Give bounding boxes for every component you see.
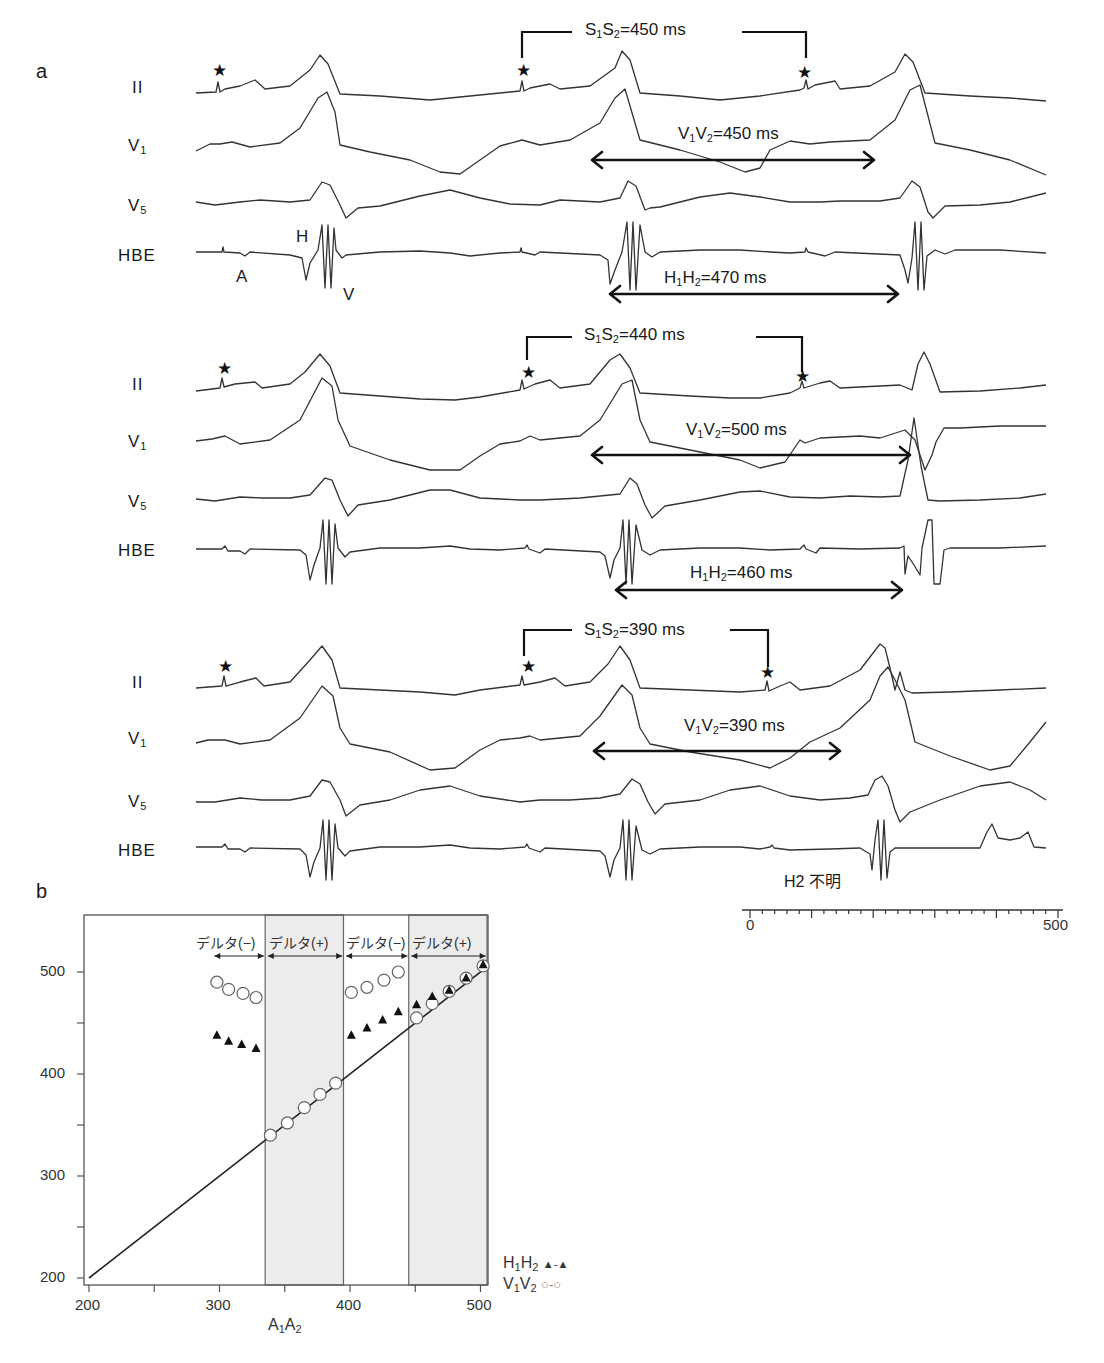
v1v2-point — [378, 974, 390, 986]
v1v2-point — [237, 987, 249, 999]
h1h2-point — [378, 1015, 387, 1024]
v1v2-point — [330, 1077, 342, 1089]
region-label-delta-neg-1: デルタ(−) — [196, 932, 256, 952]
v1v2-point — [314, 1088, 326, 1100]
region-label-delta-neg-2: デルタ(−) — [346, 932, 406, 952]
h1h2-point — [362, 1023, 371, 1032]
y-tick-label: 500 — [40, 962, 65, 979]
v1v2-point — [361, 981, 373, 993]
legend-h1h2: H1H2 ▲-▲ — [503, 1254, 568, 1273]
x-tick-label: 400 — [336, 1296, 361, 1313]
shaded-region — [265, 915, 343, 1285]
v1v2-point — [411, 1012, 423, 1024]
v1v2-point — [223, 983, 235, 995]
x-axis-label: A1A2 — [268, 1316, 302, 1335]
v1v2-point — [298, 1102, 310, 1114]
x-tick-label: 500 — [467, 1296, 492, 1313]
region-label-delta-pos-2: デルタ(+) — [412, 932, 472, 952]
legend-triangle-icon: ▲-▲ — [543, 1258, 568, 1270]
y-tick-label: 400 — [40, 1064, 65, 1081]
y-tick-label: 300 — [40, 1166, 65, 1183]
v1v2-point — [392, 966, 404, 978]
legend-circle-icon: ○-○ — [541, 1277, 561, 1292]
v1v2-point — [281, 1117, 293, 1129]
x-tick-label: 200 — [75, 1296, 100, 1313]
h1h2-point — [237, 1039, 246, 1048]
x-tick-label: 300 — [206, 1296, 231, 1313]
y-tick-label: 200 — [40, 1268, 65, 1285]
v1v2-point — [345, 986, 357, 998]
h1h2-point — [394, 1007, 403, 1016]
shaded-region — [409, 915, 487, 1285]
h1h2-point — [347, 1030, 356, 1039]
v1v2-point — [264, 1129, 276, 1141]
h1h2-point — [252, 1044, 261, 1053]
legend-v1v2: V1V2 ○-○ — [503, 1275, 561, 1294]
scatter-plot — [0, 0, 1104, 1363]
v1v2-point — [250, 992, 262, 1004]
h1h2-point — [224, 1036, 233, 1045]
h1h2-point — [212, 1030, 221, 1039]
region-label-delta-pos-1: デルタ(+) — [269, 932, 329, 952]
v1v2-point — [211, 976, 223, 988]
